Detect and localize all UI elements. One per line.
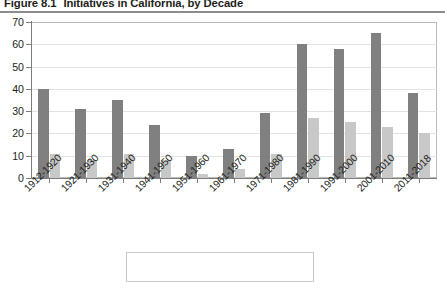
title-divider — [0, 11, 445, 13]
y-tick-label: 50 — [0, 62, 24, 72]
x-tick-mark — [197, 179, 198, 183]
y-tick-label: 30 — [0, 106, 24, 116]
bar — [198, 174, 209, 178]
x-tick-mark — [234, 179, 235, 183]
x-tick-mark — [419, 179, 420, 183]
x-tick-mark — [49, 179, 50, 183]
x-tick-mark — [160, 179, 161, 183]
legend-box — [126, 252, 314, 282]
bar — [297, 44, 308, 178]
x-tick-mark — [382, 179, 383, 183]
x-tick-mark — [123, 179, 124, 183]
figure-number: Figure 8.1 — [4, 0, 56, 9]
figure-title-text: Initiatives in California, by Decade — [63, 0, 243, 9]
bar — [334, 49, 345, 178]
y-tick-label: 70 — [0, 17, 24, 27]
y-tick-label: 10 — [0, 151, 24, 161]
y-tick-label: 20 — [0, 128, 24, 138]
x-tick-mark — [308, 179, 309, 183]
y-tick-label: 60 — [0, 39, 24, 49]
x-tick-mark — [345, 179, 346, 183]
bar — [371, 33, 382, 178]
y-tick-label: 40 — [0, 84, 24, 94]
y-tick-label: 0 — [0, 173, 24, 183]
x-tick-mark — [86, 179, 87, 183]
x-tick-mark — [271, 179, 272, 183]
